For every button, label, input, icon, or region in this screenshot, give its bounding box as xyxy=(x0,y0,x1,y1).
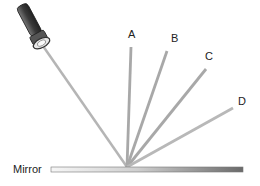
label-mirror: Mirror xyxy=(13,164,42,175)
ray-a xyxy=(127,47,131,167)
mirror xyxy=(51,167,243,172)
label-d: D xyxy=(238,96,246,107)
label-b: B xyxy=(171,33,178,44)
label-a: A xyxy=(128,29,135,40)
label-c: C xyxy=(205,51,213,62)
torch-icon xyxy=(13,1,51,51)
ray-c xyxy=(127,69,206,167)
incident-ray xyxy=(43,46,127,167)
